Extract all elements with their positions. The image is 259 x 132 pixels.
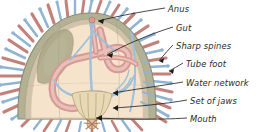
label-set-of-jaws: Set of jaws: [190, 96, 237, 106]
label-sharp-spines: Sharp spines: [176, 41, 231, 51]
label-tube-foot: Tube foot: [186, 59, 226, 69]
mouth-group: [84, 119, 100, 131]
anus-group: [89, 17, 95, 23]
leader-tube-foot: [169, 63, 183, 71]
label-mouth: Mouth: [190, 114, 217, 124]
label-water-network: Water network: [186, 78, 249, 88]
label-anus: Anus: [168, 4, 189, 14]
label-gut: Gut: [176, 23, 191, 33]
urchin-anatomy-figure: Anus Gut Sharp spines Tube foot Water ne…: [0, 0, 259, 132]
